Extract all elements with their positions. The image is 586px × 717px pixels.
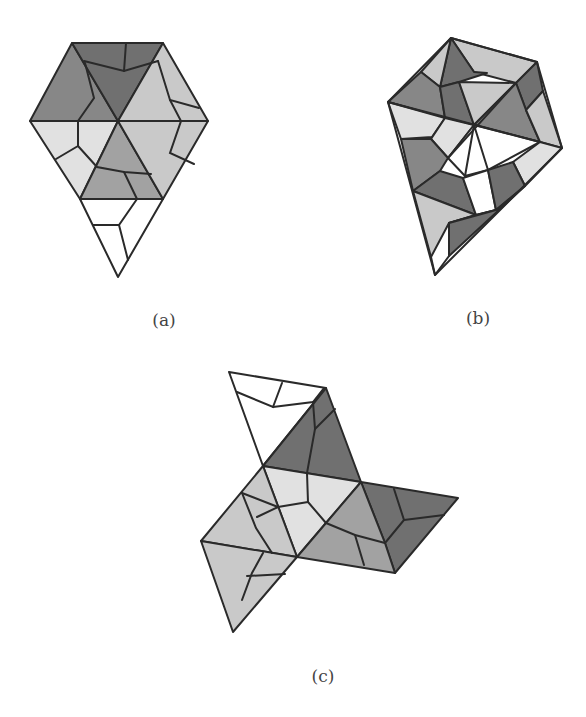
panel-a	[30, 43, 208, 277]
panel-c	[201, 372, 458, 632]
face-c-bottom-light	[201, 541, 297, 632]
caption-a: (a)	[152, 310, 175, 330]
caption-c: (c)	[312, 666, 335, 686]
caption-b: (b)	[466, 308, 490, 328]
panel-b	[388, 38, 562, 275]
diagram-canvas	[0, 0, 586, 717]
